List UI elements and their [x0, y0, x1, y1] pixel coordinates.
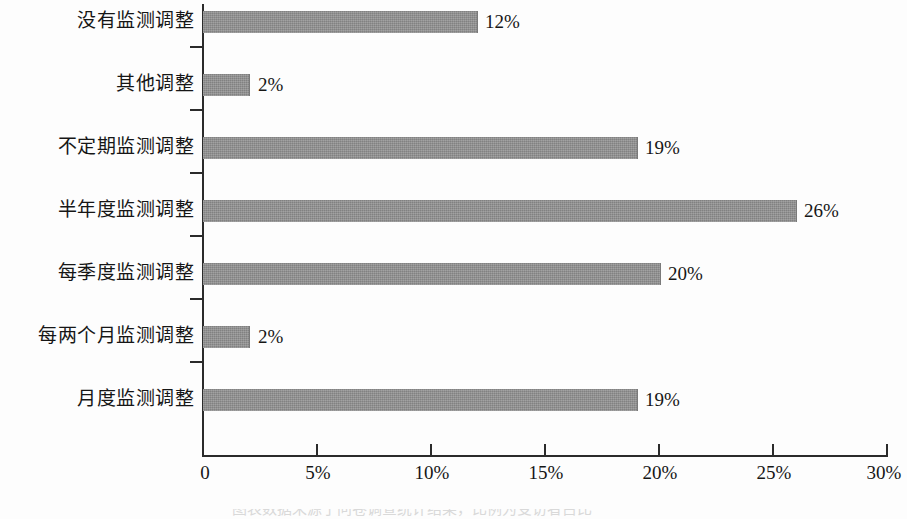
x-axis-tick — [430, 444, 432, 455]
category-label: 不定期监测调整 — [0, 136, 194, 158]
bar[interactable] — [203, 200, 797, 222]
bar-value-label: 2% — [258, 326, 283, 348]
bar[interactable] — [203, 389, 638, 411]
x-axis-tick-label: 20% — [643, 462, 678, 484]
bar[interactable] — [203, 11, 478, 33]
x-axis-tick — [658, 444, 660, 455]
x-axis-tick — [316, 444, 318, 455]
bar-row: 半年度监测调整 26% — [0, 193, 907, 256]
bar-value-label: 26% — [804, 200, 839, 222]
bar-value-label: 2% — [258, 74, 283, 96]
bar[interactable] — [203, 74, 250, 96]
category-label: 月度监测调整 — [0, 388, 194, 410]
bar[interactable] — [203, 137, 638, 159]
bar-value-label: 19% — [645, 137, 680, 159]
x-axis-tick-label: 30% — [867, 462, 902, 484]
y-axis-tick — [190, 46, 202, 48]
x-axis-line — [202, 455, 888, 457]
bar-value-label: 19% — [645, 389, 680, 411]
y-axis-tick — [190, 172, 202, 174]
category-label: 每两个月监测调整 — [0, 325, 194, 347]
category-label: 其他调整 — [0, 73, 194, 95]
bar-row: 月度监测调整 19% — [0, 382, 907, 445]
x-axis-tick — [772, 444, 774, 455]
caption-clip: 图表数据来源于问卷调查统计结果，比例为受访者占比 — [232, 509, 682, 519]
caption-text: 图表数据来源于问卷调查统计结果，比例为受访者占比 — [232, 509, 592, 519]
x-axis-tick-label: 0 — [200, 462, 210, 484]
bar-value-label: 20% — [668, 263, 703, 285]
bar[interactable] — [203, 263, 661, 285]
bar-row: 其他调整 2% — [0, 67, 907, 130]
x-axis-tick — [886, 444, 888, 455]
bar[interactable] — [203, 326, 250, 348]
category-label: 每季度监测调整 — [0, 262, 194, 284]
category-label: 没有监测调整 — [0, 10, 194, 32]
bar-row: 没有监测调整 12% — [0, 4, 907, 67]
bar-row: 每季度监测调整 20% — [0, 256, 907, 319]
y-axis-tick — [190, 235, 202, 237]
x-axis-tick — [202, 444, 204, 455]
bar-row: 每两个月监测调整 2% — [0, 319, 907, 382]
bar-value-label: 12% — [485, 11, 520, 33]
x-axis-tick-label: 10% — [415, 462, 450, 484]
y-axis-tick — [190, 361, 202, 363]
x-axis-tick-label: 25% — [757, 462, 792, 484]
x-axis-tick — [544, 444, 546, 455]
bar-row: 不定期监测调整 19% — [0, 130, 907, 193]
y-axis-tick — [190, 109, 202, 111]
category-label: 半年度监测调整 — [0, 199, 194, 221]
x-axis-tick-label: 5% — [305, 462, 330, 484]
x-axis-tick-label: 15% — [529, 462, 564, 484]
y-axis-tick — [190, 298, 202, 300]
horizontal-bar-chart: 没有监测调整 12% 其他调整 2% 不定期监测调整 19% 半年度监测调整 2… — [0, 0, 907, 519]
